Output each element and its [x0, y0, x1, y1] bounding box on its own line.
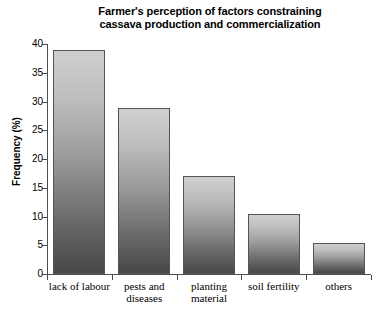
- y-axis-tick-label: 40: [32, 38, 43, 49]
- y-axis-title: Frequency (%): [11, 92, 22, 212]
- y-axis-tick-label: 30: [32, 96, 43, 107]
- y-axis-tick-label: 35: [32, 67, 43, 78]
- bar: [248, 214, 300, 274]
- y-axis-tick-label: 15: [32, 182, 43, 193]
- bar: [118, 108, 170, 274]
- bar: [53, 50, 105, 274]
- y-axis-tick-label: 0: [37, 268, 43, 279]
- bar: [313, 243, 365, 274]
- y-axis-tick-label: 20: [32, 153, 43, 164]
- x-axis-line: [47, 274, 371, 275]
- y-axis-tick-label: 10: [32, 211, 43, 222]
- plot-area: 0510152025303540: [47, 44, 371, 274]
- x-axis-category-label: others: [300, 280, 377, 292]
- bar-chart-figure: Farmer's perception of factors constrain…: [0, 0, 384, 326]
- y-axis-tick-label: 5: [37, 239, 43, 250]
- chart-title: Farmer's perception of factors constrain…: [60, 5, 360, 31]
- y-axis-tick-label: 25: [32, 124, 43, 135]
- bar: [183, 176, 235, 274]
